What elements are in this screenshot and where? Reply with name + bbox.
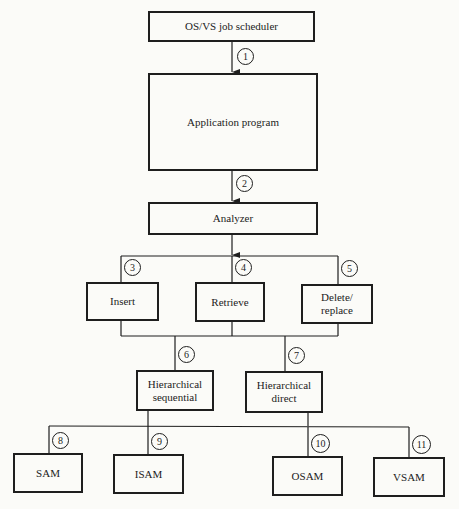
- node-hierarchical-direct: Hierarchical direct: [245, 371, 323, 413]
- node-vsam: VSAM: [373, 457, 445, 497]
- node-label: Application program: [187, 116, 279, 129]
- node-label: OSAM: [292, 470, 324, 483]
- step-number-text: 3: [130, 262, 135, 273]
- step-number-badge: 4: [235, 259, 252, 276]
- node-retrieve: Retrieve: [195, 282, 265, 322]
- step-number-text: 4: [241, 262, 246, 273]
- step-number-text: 7: [294, 350, 299, 361]
- node-label: Hierarchical sequential: [148, 378, 202, 404]
- node-osam: OSAM: [272, 456, 343, 496]
- node-isam: ISAM: [113, 454, 184, 494]
- node-os-vs-job-scheduler: OS/VS job scheduler: [148, 11, 315, 42]
- step-number-badge: 5: [341, 260, 358, 277]
- step-number-badge: 9: [151, 433, 168, 450]
- node-label: Retrieve: [211, 296, 248, 309]
- node-label: Hierarchical direct: [257, 379, 311, 405]
- node-sam: SAM: [13, 453, 83, 493]
- node-label: VSAM: [393, 471, 425, 484]
- node-analyzer: Analyzer: [148, 202, 318, 235]
- step-number-text: 6: [184, 349, 189, 360]
- node-application-program: Application program: [148, 73, 318, 171]
- step-number-text: 10: [316, 438, 326, 449]
- node-label: Delete/ replace: [321, 291, 353, 317]
- node-label: OS/VS job scheduler: [185, 20, 278, 33]
- step-number-text: 11: [417, 439, 427, 450]
- step-number-badge: 6: [178, 346, 195, 363]
- step-number-badge: 1: [237, 48, 254, 65]
- step-number-text: 1: [243, 51, 248, 62]
- node-label: Insert: [110, 295, 135, 308]
- step-number-badge: 2: [236, 175, 253, 192]
- node-insert: Insert: [86, 282, 159, 321]
- node-label: Analyzer: [213, 212, 253, 225]
- node-hierarchical-sequential: Hierarchical sequential: [136, 370, 214, 411]
- node-label: ISAM: [135, 468, 163, 481]
- step-number-text: 8: [58, 435, 63, 446]
- step-number-text: 9: [157, 436, 162, 447]
- step-number-badge: 11: [412, 435, 431, 454]
- node-delete-replace: Delete/ replace: [301, 284, 373, 324]
- step-number-text: 2: [242, 178, 247, 189]
- step-number-text: 5: [347, 263, 352, 274]
- step-number-badge: 8: [52, 432, 69, 449]
- step-number-badge: 10: [311, 434, 330, 453]
- node-label: SAM: [36, 467, 60, 480]
- step-number-badge: 3: [124, 259, 141, 276]
- step-number-badge: 7: [288, 347, 305, 364]
